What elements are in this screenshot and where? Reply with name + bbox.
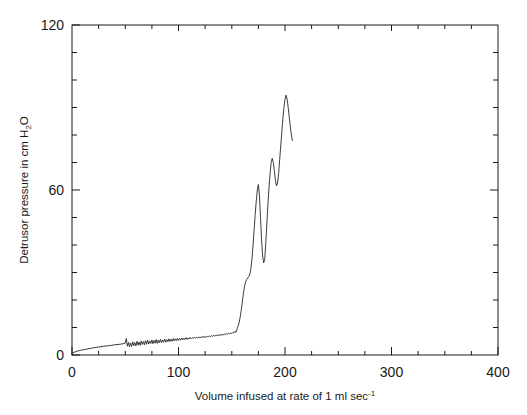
x-tick-label-400: 400 <box>486 364 510 380</box>
x-axis-ticks <box>72 347 498 355</box>
y-tick-label-0: 0 <box>56 347 64 363</box>
plot-frame <box>72 25 498 355</box>
y-axis-title: Detrusor pressure in cm H2O <box>18 116 33 264</box>
chart-svg: 0 100 200 300 400 0 60 120 Detrusor pres… <box>0 0 527 415</box>
cropped-header-text <box>72 0 272 4</box>
x-axis-title-main: Volume infused at rate of 1 ml sec <box>195 390 368 402</box>
x-axis-title: Volume infused at rate of 1 ml sec-1 <box>195 389 376 402</box>
x-axis-title-exponent: -1 <box>368 389 376 398</box>
top-axis-ticks <box>99 25 472 31</box>
y-axis-title-part2: O <box>18 116 30 125</box>
y-axis-ticks <box>72 25 80 355</box>
y-tick-label-60: 60 <box>48 182 64 198</box>
cystometrogram-figure: 0 100 200 300 400 0 60 120 Detrusor pres… <box>0 0 527 415</box>
y-axis-title-part1: Detrusor pressure in cm H <box>18 130 30 264</box>
x-tick-label-300: 300 <box>380 364 404 380</box>
y-tick-label-120: 120 <box>41 17 65 33</box>
right-axis-ticks <box>490 53 498 328</box>
x-tick-label-100: 100 <box>167 364 191 380</box>
x-tick-label-200: 200 <box>273 364 297 380</box>
x-tick-label-0: 0 <box>68 364 76 380</box>
pressure-trace <box>72 95 292 353</box>
